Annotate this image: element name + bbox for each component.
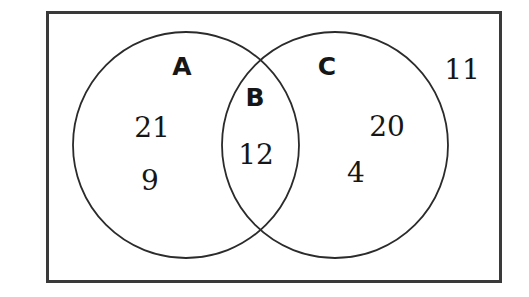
- venn-diagram-figure: A B C 21 9 12 20 4 11: [0, 0, 529, 297]
- venn-diagram-canvas: [0, 0, 529, 297]
